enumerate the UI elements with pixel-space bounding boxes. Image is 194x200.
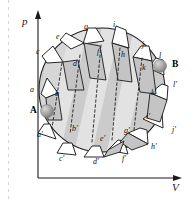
p-axis-arrow — [35, 10, 41, 19]
point-label-g: g — [84, 23, 88, 31]
point-label-d: d — [73, 60, 77, 68]
point-label-f-prime: f' — [122, 155, 126, 163]
point-label-i: i — [113, 21, 115, 29]
point-label-d-prime: d' — [93, 158, 99, 166]
sphere-a — [41, 105, 54, 118]
point-label-g-prime: g' — [124, 127, 130, 135]
point-label-e: e — [56, 33, 60, 41]
point-label-b-prime: b' — [72, 125, 78, 133]
point-label-a-prime: a' — [37, 131, 43, 139]
sphere-b — [154, 60, 167, 73]
point-label-l: l — [159, 52, 161, 60]
point-label-k: k — [142, 64, 146, 72]
marker-label-b: B — [172, 60, 178, 70]
point-label-c: c — [36, 48, 40, 56]
point-label-h-prime: h' — [151, 143, 157, 151]
point-label-j-prime: j' — [172, 126, 176, 134]
axis-label-p: p — [22, 16, 28, 27]
axis-label-v: V — [172, 182, 179, 193]
point-label-f: f — [97, 48, 99, 56]
point-label-b: b — [55, 90, 59, 98]
point-label-e-prime: e' — [100, 135, 105, 143]
point-label-a: a — [30, 86, 34, 94]
marker-label-a: A — [30, 106, 37, 116]
point-label-i-prime: i' — [146, 113, 150, 121]
point-label-k-prime: k' — [151, 89, 156, 97]
figure-canvas — [0, 0, 194, 200]
pv-diagram-figure: p V A B a b c d e f g h i j k l a' b' c'… — [0, 0, 194, 200]
point-label-h: h — [121, 51, 125, 59]
point-label-j: j — [142, 41, 144, 49]
point-label-l-prime: l' — [173, 81, 177, 89]
point-label-c-prime: c' — [59, 155, 64, 163]
